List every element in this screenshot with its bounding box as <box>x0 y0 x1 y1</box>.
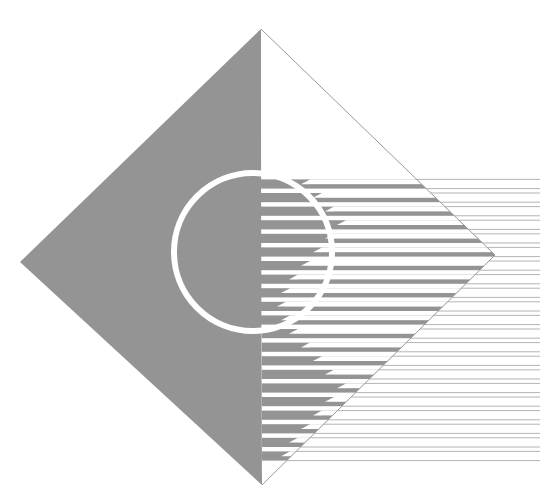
stripe-notch <box>334 234 540 239</box>
stripe-notch <box>310 343 540 348</box>
stripe-notch <box>310 261 540 266</box>
stripe-notch <box>322 247 540 252</box>
stripe-notch <box>290 315 540 320</box>
stripe-notch <box>334 370 540 375</box>
stripe-notch <box>346 383 540 388</box>
stripe-notch <box>310 424 540 429</box>
stripe-notch <box>322 411 540 416</box>
stripe-notch <box>286 302 540 307</box>
stripe-notch <box>298 438 540 443</box>
artwork-svg-root: Abstract Geometric Logo Artwork <box>0 0 540 504</box>
stripe-notch <box>322 356 540 361</box>
stripe-notch <box>334 207 540 212</box>
stripe-notch <box>290 288 540 293</box>
diamond-group <box>20 29 495 485</box>
artwork-canvas: Abstract Geometric Logo Artwork logo-art… <box>0 0 540 504</box>
stripe-notch <box>334 397 540 402</box>
stripe-notch <box>310 179 540 184</box>
diamond-left-half <box>20 29 262 485</box>
stripe-band <box>170 451 540 460</box>
stripe-notch <box>290 451 540 456</box>
stripe-notch <box>346 220 540 225</box>
stripe-notch <box>298 275 540 280</box>
